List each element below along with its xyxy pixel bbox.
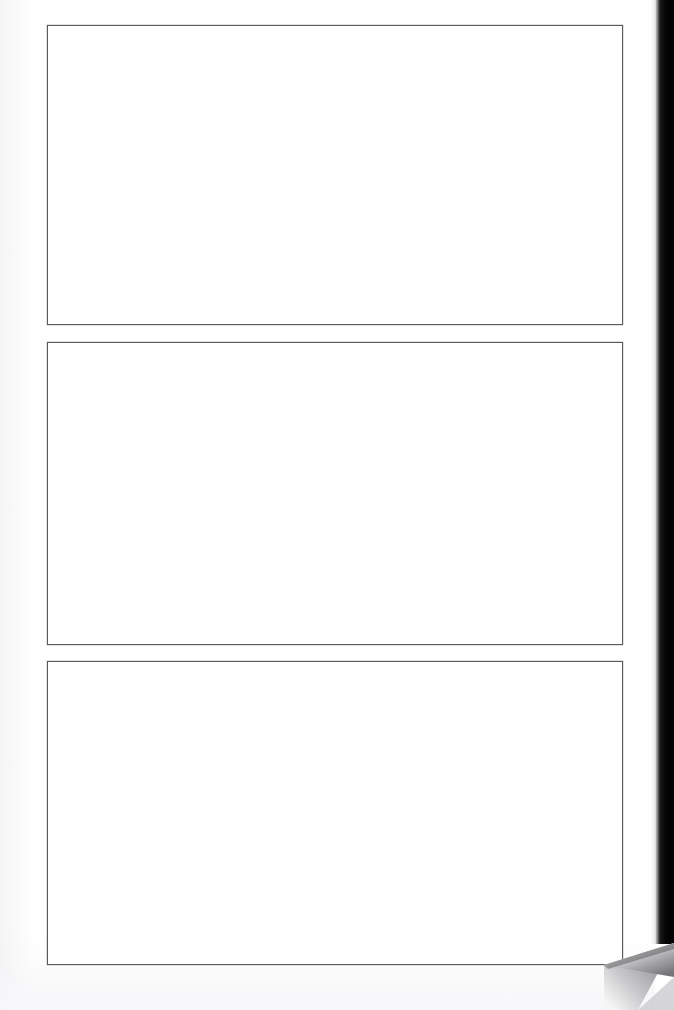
content-frame-bottom: [47, 661, 623, 965]
content-frame-middle: [47, 342, 623, 645]
page-curl-icon: [560, 925, 674, 1010]
scanned-document-page: [0, 0, 674, 1010]
content-frame-top-text: [48, 26, 49, 27]
content-frame-top: [47, 25, 623, 325]
page-curl-corner: [560, 925, 674, 1010]
content-frame-middle-text: [48, 343, 49, 344]
scanner-gutter-band: [655, 0, 674, 944]
content-frame-bottom-text: [48, 662, 49, 663]
